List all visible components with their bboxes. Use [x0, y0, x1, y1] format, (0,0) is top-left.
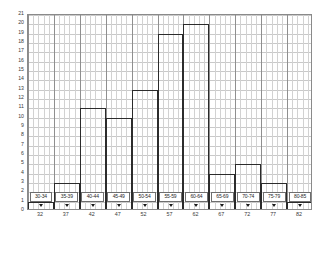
class-interval-label-text: 60-64 — [190, 194, 202, 199]
gridline-vertical-major — [287, 15, 288, 209]
down-triangle-marker-icon — [220, 204, 224, 207]
class-interval-label: 65-69 — [211, 192, 234, 201]
down-triangle-marker-icon — [194, 204, 198, 207]
x-tick-label: 32 — [37, 212, 43, 217]
class-interval-label-text: 40-44 — [87, 194, 99, 199]
histogram-bar — [158, 34, 184, 210]
gridline-vertical-minor — [292, 15, 293, 209]
gridline-vertical-minor — [69, 15, 70, 209]
gridline-vertical-minor — [44, 15, 45, 209]
down-triangle-marker-icon — [169, 204, 173, 207]
class-interval-label-text: 80-85 — [294, 194, 306, 199]
y-tick-label: 19 — [18, 30, 24, 35]
y-tick-label: 7 — [21, 142, 24, 147]
class-interval-label-text: 55-59 — [164, 194, 176, 199]
gridline-vertical-minor — [277, 15, 278, 209]
gridline-vertical-minor — [38, 15, 39, 209]
class-interval-label-text: 45-49 — [113, 194, 125, 199]
y-tick-label: 15 — [18, 67, 24, 72]
down-triangle-marker-icon — [272, 204, 276, 207]
gridline-vertical-minor — [272, 15, 273, 209]
x-tick-label: 57 — [167, 212, 173, 217]
class-interval-label: 35-39 — [55, 192, 78, 201]
class-interval-label: 60-64 — [185, 192, 208, 201]
gridline-vertical-minor — [75, 15, 76, 209]
y-tick-label: 21 — [18, 11, 24, 16]
x-tick-label: 67 — [218, 212, 224, 217]
gridline-vertical-minor — [303, 15, 304, 209]
class-interval-label: 30-34 — [30, 192, 53, 201]
gridline-horizontal — [28, 24, 311, 25]
y-tick-label: 18 — [18, 39, 24, 44]
class-interval-label: 55-59 — [159, 192, 182, 201]
x-tick-label: 37 — [63, 212, 69, 217]
gridline-vertical-minor — [33, 15, 34, 209]
gridline-vertical-major — [28, 15, 29, 209]
class-interval-label: 45-49 — [107, 192, 130, 201]
y-tick-label: 6 — [21, 151, 24, 156]
class-interval-label-text: 30-34 — [35, 194, 47, 199]
down-triangle-marker-icon — [39, 204, 43, 207]
gridline-vertical-minor — [282, 15, 283, 209]
histogram-bar — [235, 164, 261, 210]
down-triangle-marker-icon — [65, 204, 69, 207]
y-tick-label: 9 — [21, 123, 24, 128]
y-tick-label: 5 — [21, 161, 24, 166]
x-tick-label: 52 — [141, 212, 147, 217]
x-axis: 3237424752576267727782 — [27, 212, 312, 232]
y-tick-label: 3 — [21, 179, 24, 184]
x-tick-label: 72 — [244, 212, 250, 217]
y-tick-label: 20 — [18, 21, 24, 26]
class-interval-label-text: 65-69 — [216, 194, 228, 199]
histogram-bar — [183, 24, 209, 210]
x-tick-label: 77 — [270, 212, 276, 217]
gridline-vertical-minor — [297, 15, 298, 209]
down-triangle-marker-icon — [117, 204, 121, 207]
y-tick-label: 16 — [18, 58, 24, 63]
class-interval-label-text: 70-74 — [242, 194, 254, 199]
class-interval-label: 75-79 — [263, 192, 286, 201]
class-interval-label-text: 50-54 — [139, 194, 151, 199]
y-tick-label: 12 — [18, 95, 24, 100]
down-triangle-marker-icon — [91, 204, 95, 207]
plot-area: 30-3435-3940-4445-4950-5455-5960-6465-69… — [27, 14, 312, 210]
class-interval-label-text: 75-79 — [268, 194, 280, 199]
gridline-vertical-minor — [308, 15, 309, 209]
down-triangle-marker-icon — [246, 204, 250, 207]
class-interval-label-text: 35-39 — [61, 194, 73, 199]
down-triangle-marker-icon — [298, 204, 302, 207]
class-interval-label: 80-85 — [289, 192, 312, 201]
x-tick-label: 82 — [296, 212, 302, 217]
y-tick-label: 11 — [19, 105, 24, 110]
x-tick-label: 42 — [89, 212, 95, 217]
gridline-vertical-minor — [59, 15, 60, 209]
y-tick-label: 1 — [21, 198, 24, 203]
gridline-vertical-minor — [49, 15, 50, 209]
x-tick-label: 62 — [192, 212, 198, 217]
gridline-vertical-major — [54, 15, 55, 209]
class-interval-label: 70-74 — [237, 192, 260, 201]
y-tick-label: 8 — [21, 133, 24, 138]
y-tick-label: 13 — [18, 86, 24, 91]
y-axis: 0123456789101112131415161718192021 — [0, 0, 27, 257]
y-tick-label: 0 — [21, 207, 24, 212]
gridline-vertical-minor — [266, 15, 267, 209]
y-tick-label: 14 — [18, 77, 24, 82]
y-tick-label: 10 — [18, 114, 24, 119]
x-tick-label: 47 — [115, 212, 121, 217]
y-tick-label: 4 — [21, 170, 24, 175]
y-tick-label: 17 — [18, 49, 24, 54]
class-interval-label: 50-54 — [133, 192, 156, 201]
y-tick-label: 2 — [21, 189, 24, 194]
down-triangle-marker-icon — [143, 204, 147, 207]
histogram-chart: 0123456789101112131415161718192021 30-34… — [0, 0, 321, 257]
gridline-vertical-minor — [64, 15, 65, 209]
class-interval-label: 40-44 — [81, 192, 104, 201]
gridline-horizontal — [28, 15, 311, 16]
